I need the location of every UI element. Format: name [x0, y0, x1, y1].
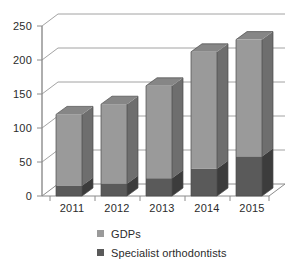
- x-axis-ticks: [50, 196, 269, 201]
- y-tick-label-0: 0: [2, 191, 32, 202]
- x-tick-label-2012: 2012: [97, 202, 137, 214]
- column-2014: [191, 44, 228, 196]
- legend-item-gdps: GDPs: [0, 224, 289, 243]
- plot-canvas: [0, 0, 289, 215]
- bar-chart: 250 200 150 100 50 0 2011 2012 2013 2014…: [0, 0, 289, 269]
- x-tick-label-2014: 2014: [187, 202, 227, 214]
- x-tick-label-2015: 2015: [232, 202, 272, 214]
- column-2015: [236, 32, 273, 196]
- legend-label-specialist-orthodontists: Specialist orthodontists: [111, 247, 227, 259]
- y-tick-label-200: 200: [2, 55, 32, 66]
- legend-swatch-specialist-orthodontists: [97, 249, 104, 256]
- y-tick-label-100: 100: [2, 123, 32, 134]
- y-tick-label-50: 50: [2, 157, 32, 168]
- x-tick-label-2013: 2013: [142, 202, 182, 214]
- y-tick-label-150: 150: [2, 89, 32, 100]
- legend-label-gdps: GDPs: [111, 228, 141, 240]
- column-2012: [101, 96, 138, 196]
- y-tick-label-250: 250: [2, 21, 32, 32]
- column-2013: [146, 78, 183, 196]
- y-axis-ticks: [37, 26, 42, 196]
- chart-legend: GDPs Specialist orthodontists: [0, 224, 289, 262]
- plot-area: 250 200 150 100 50 0 2011 2012 2013 2014…: [0, 0, 289, 215]
- legend-swatch-gdps: [97, 230, 104, 237]
- x-tick-label-2011: 2011: [52, 202, 92, 214]
- legend-item-specialist-orthodontists: Specialist orthodontists: [0, 243, 289, 262]
- column-2011: [56, 106, 93, 196]
